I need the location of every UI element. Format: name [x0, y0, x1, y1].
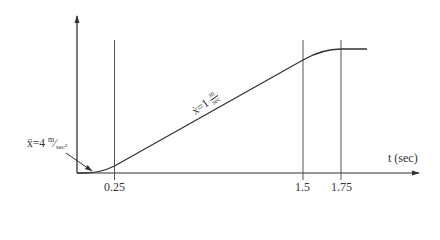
x-axis-label: t (sec) [388, 152, 418, 164]
acceleration-pointer-arrow [66, 153, 92, 171]
tick-label-1-75: 1.75 [331, 181, 352, 193]
tick-label-1-5: 1.5 [295, 181, 310, 193]
acceleration-value: ẍ=4 [27, 137, 45, 149]
acceleration-unit-numerator: m [48, 135, 54, 144]
acceleration-unit-denominator: sec² [56, 143, 67, 151]
tick-label-0-25: 0.25 [104, 181, 125, 193]
acceleration-annotation: ẍ=4 m⁄sec² [27, 138, 67, 150]
trajectory-curve [77, 49, 367, 173]
